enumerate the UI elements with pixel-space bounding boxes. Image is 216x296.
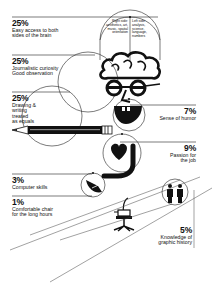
infographic: Right side: aesthetics, art, music, spat… xyxy=(0,0,216,296)
item-text: Computer skills xyxy=(12,185,82,191)
item-text: graphic history xyxy=(148,240,192,246)
item-humor: 7% Sense of humor xyxy=(150,107,196,121)
item-text: for the long hours xyxy=(12,212,82,218)
item-text: Sense of humor xyxy=(150,116,196,122)
mouse-icon xyxy=(86,180,103,193)
glasses-icon xyxy=(107,81,160,102)
item-graphic-history: 5% Knowledge of graphic history xyxy=(148,226,192,246)
heart-icon xyxy=(104,144,133,176)
item-brain-access: 25% Easy access to both sides of the bra… xyxy=(12,19,92,39)
brain-left-label: Left side: analysis, science, language, … xyxy=(132,20,157,39)
pencil-icon xyxy=(12,126,112,134)
item-passion: 9% Passion for the job xyxy=(150,144,196,164)
item-curiosity: 25% Journalistic curiosity Good observat… xyxy=(12,57,92,77)
item-text: sides of the brain xyxy=(12,33,92,39)
item-computer: 3% Computer skills xyxy=(12,176,82,190)
item-drawing-writing: 25% Drawing & writing treated as equals xyxy=(12,94,52,125)
item-text: the job xyxy=(150,158,196,164)
brain-right-label: Right side: aesthetics, art, music, spat… xyxy=(103,20,128,35)
smile-icon xyxy=(114,106,142,124)
item-chair: 1% Comfortable chair for the long hours xyxy=(12,198,82,218)
item-text: as equals xyxy=(12,119,52,125)
item-text: Good observation xyxy=(12,71,92,77)
